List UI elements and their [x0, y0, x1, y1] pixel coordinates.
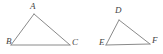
vertex-label-d: D — [115, 6, 122, 15]
side-DE — [106, 20, 119, 45]
side-AC — [34, 14, 70, 45]
triangles-drawing — [0, 0, 163, 54]
vertex-label-f: F — [152, 36, 158, 45]
vertex-label-b: B — [6, 37, 12, 46]
side-AB — [11, 14, 34, 45]
side-DF — [119, 20, 150, 44]
triangle-def — [106, 20, 150, 45]
side-EF — [106, 44, 150, 45]
vertex-label-a: A — [30, 2, 36, 11]
vertex-label-c: C — [72, 38, 78, 47]
geometry-figure: A B C D E F — [0, 0, 163, 54]
triangle-abc — [11, 14, 70, 45]
vertex-label-e: E — [99, 38, 105, 47]
